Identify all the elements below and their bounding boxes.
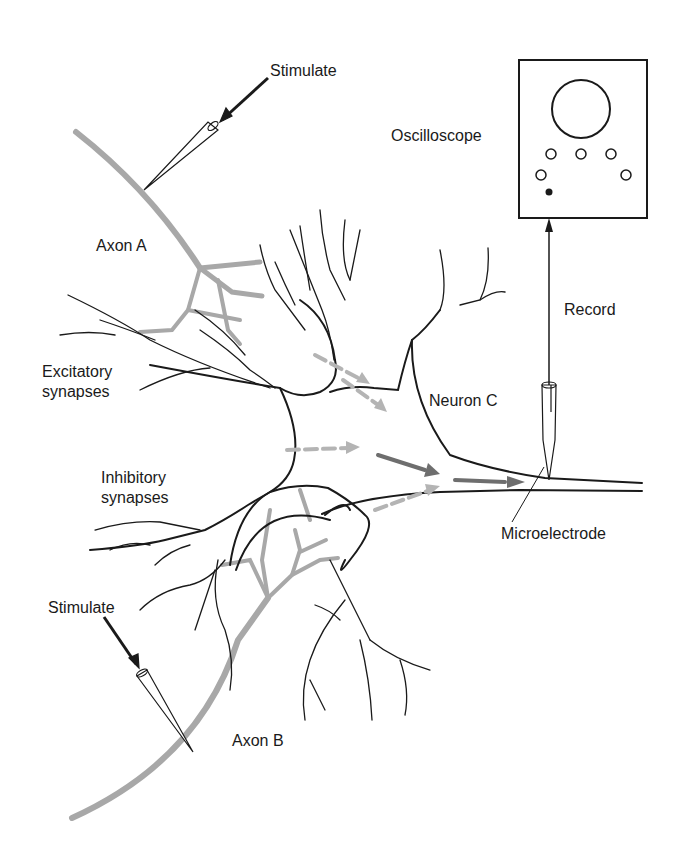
microelectrode-label: Microelectrode	[501, 524, 606, 543]
axon-a-label: Axon A	[96, 236, 147, 255]
neuron-c-label: Neuron C	[429, 391, 497, 410]
oscilloscope-label: Oscilloscope	[391, 126, 482, 145]
axon-b	[72, 490, 338, 818]
neuron-diagram: Stimulate Axon A Excitatory synapses Inh…	[0, 0, 692, 853]
diagram-artwork	[0, 0, 692, 853]
excitatory-label-line1: Excitatory	[42, 362, 112, 381]
stimulating-electrode-bottom	[104, 617, 193, 752]
oscilloscope	[519, 60, 647, 218]
record-label: Record	[564, 300, 616, 319]
dendrites	[60, 210, 505, 720]
excitatory-label-line2: synapses	[42, 382, 110, 401]
stimulating-electrode-top	[144, 78, 268, 190]
inhibitory-label-line2: synapses	[101, 488, 169, 507]
stimulate-label-bottom: Stimulate	[48, 598, 115, 617]
stimulate-label-top: Stimulate	[270, 61, 337, 80]
axon-b-label: Axon B	[232, 731, 284, 750]
inhibitory-label-line1: Inhibitory	[101, 468, 166, 487]
